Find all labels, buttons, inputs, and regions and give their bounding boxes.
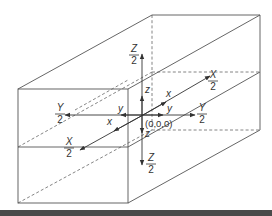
footer-bar xyxy=(0,210,272,216)
y-positive-extent-denominator: 2 xyxy=(199,114,205,125)
y-positive-extent-numerator: Y xyxy=(199,102,207,113)
x-negative-extent-numerator: X xyxy=(65,136,73,147)
x-negative-label: x xyxy=(106,116,113,127)
x-positive-extent-denominator: 2 xyxy=(210,81,216,92)
hidden-edges xyxy=(18,15,260,203)
top-right-depth-edge xyxy=(128,15,260,89)
axes xyxy=(65,54,210,165)
y-negative-label: y xyxy=(117,103,124,114)
x-positive-label: x xyxy=(165,88,172,99)
y-positive-label: y xyxy=(166,103,173,114)
y-negative-extent-denominator: 2 xyxy=(57,114,63,125)
x-positive-small-arrow xyxy=(143,102,166,115)
z-positive-extent-denominator: 2 xyxy=(131,55,137,66)
z-positive-extent-numerator: Z xyxy=(130,43,138,54)
z-negative-label: z xyxy=(144,128,150,139)
x-negative-small-arrow xyxy=(114,115,143,131)
y-negative-extent-numerator: Y xyxy=(57,102,65,113)
visible-edges xyxy=(18,15,260,203)
z-positive-label: z xyxy=(144,84,150,95)
front-face xyxy=(18,89,128,203)
left-middle-depth-hidden-line xyxy=(18,72,152,147)
bottom-left-depth-hidden-edge xyxy=(18,130,152,203)
z-negative-extent-numerator: Z xyxy=(147,152,155,163)
box-coordinate-diagram: (0,0,0) z z x x y y Z 2 Z 2 X 2 X 2 Y 2 … xyxy=(0,0,272,216)
labels: (0,0,0) z z x x y y Z 2 Z 2 X 2 X 2 Y 2 … xyxy=(55,43,218,175)
z-negative-extent-denominator: 2 xyxy=(148,164,154,175)
x-positive-extent-numerator: X xyxy=(209,69,217,80)
x-negative-extent-denominator: 2 xyxy=(66,148,72,159)
